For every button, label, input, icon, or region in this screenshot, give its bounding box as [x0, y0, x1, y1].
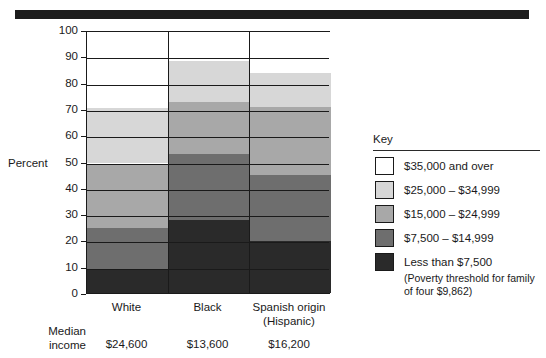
- plot-area: [86, 31, 330, 294]
- legend-swatch: [375, 253, 394, 271]
- gridline: [87, 137, 329, 138]
- y-axis-tick-label: 20: [44, 235, 78, 247]
- y-axis-tick-mark: [81, 294, 86, 295]
- legend-swatch: [375, 181, 394, 199]
- gridline: [87, 242, 329, 243]
- bar-segment: [169, 32, 249, 61]
- gridline: [87, 111, 329, 112]
- bar-column-black: [168, 32, 249, 293]
- gridline: [87, 164, 329, 165]
- x-axis-label-line1: White: [112, 301, 141, 313]
- poverty-note-line2: of four $9,862): [404, 285, 472, 297]
- y-axis-tick-label: 100: [44, 25, 78, 37]
- gridline: [87, 190, 329, 191]
- y-axis-tick-label: 40: [44, 183, 78, 195]
- legend-label: $25,000 – $34,999: [404, 184, 500, 196]
- y-axis-tick-label: 90: [44, 51, 78, 63]
- top-black-rule: [15, 10, 529, 19]
- bar-segment: [87, 164, 168, 228]
- gridline: [87, 58, 329, 59]
- median-income-value: $16,200: [234, 338, 344, 350]
- y-axis-tick-label: 10: [44, 262, 78, 274]
- bar-segment: [250, 73, 331, 107]
- legend-swatch: [375, 229, 394, 247]
- bar-segment: [169, 220, 249, 293]
- legend-title: Key: [373, 133, 541, 146]
- y-axis-title: Percent: [8, 157, 48, 169]
- chart-page: Percent 1009080706050403020100 WhiteBlac…: [0, 0, 546, 358]
- legend-underline: [373, 150, 540, 151]
- bar-segment: [87, 269, 168, 293]
- legend-label: Less than $7,500: [404, 256, 492, 268]
- poverty-note-line1: (Poverty threshold for family: [404, 272, 535, 284]
- legend-label: $35,000 and over: [404, 160, 494, 172]
- y-axis-tick-label: 60: [44, 130, 78, 142]
- bar-segment: [169, 61, 249, 102]
- legend-swatch: [375, 205, 394, 223]
- poverty-threshold-note: (Poverty threshold for family of four $9…: [404, 272, 544, 297]
- bar-segment: [250, 32, 331, 73]
- x-axis-label-line1: Spanish origin: [253, 301, 326, 313]
- bar-column-white: [87, 32, 168, 293]
- legend-title-wrap: Key: [373, 133, 541, 146]
- bar-segment: [87, 228, 168, 269]
- gridline: [87, 85, 329, 86]
- x-axis-label: Spanish origin(Hispanic): [234, 300, 344, 328]
- bar-segment: [250, 175, 331, 241]
- bar-segment: [87, 108, 168, 163]
- bar-segment: [87, 32, 168, 108]
- y-axis-tick-label: 0: [44, 288, 78, 300]
- x-axis-label-line2: (Hispanic): [234, 314, 344, 328]
- bar-segment: [169, 102, 249, 155]
- bar-segment: [250, 241, 331, 293]
- legend-label: $15,000 – $24,999: [404, 208, 500, 220]
- bar-column-spanish-origin: [249, 32, 331, 293]
- legend-swatch: [375, 157, 394, 175]
- bar-segment: [250, 107, 331, 175]
- y-axis-tick-label: 70: [44, 104, 78, 116]
- gridline: [87, 216, 329, 217]
- median-income-label-line1: Median: [48, 325, 86, 337]
- legend-label: $7,500 – $14,999: [404, 232, 494, 244]
- y-axis-tick-label: 80: [44, 78, 78, 90]
- y-axis-tick-label: 50: [44, 157, 78, 169]
- y-axis-tick-label: 30: [44, 209, 78, 221]
- x-axis-label-line1: Black: [193, 301, 221, 313]
- gridline: [87, 269, 329, 270]
